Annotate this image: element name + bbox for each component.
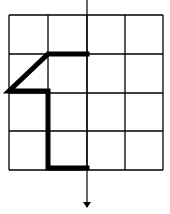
grid-diagram [0,0,170,214]
vertical-axis-arrow [83,0,91,208]
arrow-down-icon [83,202,91,208]
